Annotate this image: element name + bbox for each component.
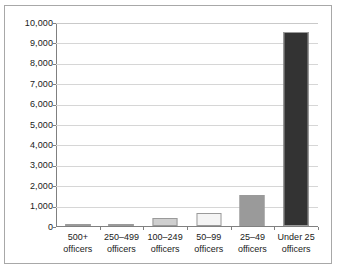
bar[interactable] [240, 195, 265, 226]
y-axis-tick-label: 9,000 [9, 39, 53, 48]
x-axis-tick-label-line2: officers [187, 244, 231, 256]
x-axis-tick-label: Under 25officers [274, 232, 318, 255]
y-axis-tick-label: 6,000 [9, 100, 53, 109]
y-axis-tick-label: 7,000 [9, 80, 53, 89]
chart-frame: 10,0009,0008,0007,0006,0005,0004,0003,00… [4, 5, 332, 264]
y-axis: 10,0009,0008,0007,0006,0005,0004,0003,00… [5, 23, 53, 227]
bar-slot [187, 22, 231, 226]
x-axis-tick-label: 500+officers [56, 232, 100, 255]
y-axis-tick-label: 5,000 [9, 121, 53, 130]
x-axis-tick-label-line2: officers [274, 244, 318, 256]
x-axis-tick-label: 25–49officers [231, 232, 275, 255]
x-axis-tick-label: 250–499officers [100, 232, 144, 255]
y-axis-tick-label: 1,000 [9, 202, 53, 211]
bar[interactable] [65, 224, 90, 226]
x-axis-tick-label: 100–249officers [143, 232, 187, 255]
bar-slot [231, 22, 275, 226]
bar[interactable] [109, 224, 134, 226]
x-axis-tick-label-line2: officers [143, 244, 187, 256]
x-axis-tick-label-line2: officers [231, 244, 275, 256]
x-axis-tick-mark [274, 227, 275, 230]
x-axis-tick-label-line1: 250–499 [104, 232, 139, 242]
bar-slot [274, 22, 318, 226]
y-axis-tick-label: 2,000 [9, 182, 53, 191]
y-axis-tick-label: 8,000 [9, 59, 53, 68]
bar-slot [143, 22, 187, 226]
bar-slot [56, 22, 100, 226]
plot-area [56, 23, 318, 227]
x-axis-tick-mark [187, 227, 188, 230]
x-axis-tick-label-line1: Under 25 [278, 232, 315, 242]
x-axis-tick-mark [231, 227, 232, 230]
y-axis-tick-label: 0 [9, 223, 53, 232]
x-axis-tick-mark [318, 227, 319, 230]
x-axis-tick-label-line2: officers [100, 244, 144, 256]
x-axis-tick-label-line1: 100–249 [148, 232, 183, 242]
x-axis-tick-mark [100, 227, 101, 230]
x-axis-tick-label-line1: 25–49 [240, 232, 265, 242]
x-axis-tick-label-line1: 500+ [68, 232, 88, 242]
y-axis-tick-label: 3,000 [9, 161, 53, 170]
x-axis-tick-mark [143, 227, 144, 230]
bar[interactable] [284, 32, 309, 226]
bar[interactable] [196, 213, 221, 226]
x-axis-tick-label-line1: 50–99 [196, 232, 221, 242]
y-axis-tick-mark [53, 227, 56, 228]
x-axis: 500+officers250–499officers100–249office… [56, 232, 318, 262]
x-axis-tick-label-line2: officers [56, 244, 100, 256]
x-axis-tick-label: 50–99officers [187, 232, 231, 255]
bar[interactable] [153, 218, 178, 226]
y-axis-tick-label: 4,000 [9, 141, 53, 150]
bar-slot [100, 22, 144, 226]
y-axis-tick-label: 10,000 [9, 19, 53, 28]
